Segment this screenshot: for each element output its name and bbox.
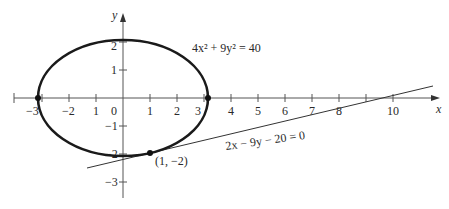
tangent-point — [147, 150, 153, 156]
y-axis-arrow-icon — [120, 13, 126, 22]
x-tick-label: 8 — [336, 104, 342, 118]
x-tick-label: 1 — [147, 104, 153, 118]
x-tick-label: 5 — [255, 104, 261, 118]
x-axis-label: x — [435, 102, 442, 116]
x-tick-label: 6 — [282, 104, 288, 118]
x-tick-label: 1 — [93, 104, 99, 118]
line-equation-label: 2x − 9y − 20 = 0 — [224, 128, 305, 153]
ellipse-tangent-diagram: −3 −2 1 0 1 2 3 4 5 6 7 8 10 x 2 1 −1 −2… — [0, 0, 449, 209]
x-axis — [14, 93, 440, 103]
y-axis-label: y — [111, 8, 118, 22]
x-axis-arrow-icon — [431, 95, 440, 101]
point-label: (1, −2) — [155, 154, 188, 168]
y-tick-label: −1 — [105, 119, 118, 133]
x-tick-label: 3 — [195, 104, 201, 118]
x-tick-label: −3 — [26, 104, 39, 118]
x-tick-labels: −3 −2 1 0 1 2 3 4 5 6 7 8 10 x — [26, 102, 442, 118]
x-tick-label: 4 — [228, 104, 234, 118]
ellipse-equation-label: 4x² + 9y² = 40 — [192, 41, 261, 55]
x-tick-label: 2 — [174, 104, 180, 118]
x-tick-label: 7 — [309, 104, 315, 118]
left-vertex-point — [35, 95, 41, 101]
x-tick-label: −2 — [62, 104, 75, 118]
x-tick-label: 10 — [387, 104, 399, 118]
right-vertex-point — [205, 95, 211, 101]
x-tick-label: 0 — [111, 104, 117, 118]
y-tick-label: 1 — [111, 63, 117, 77]
y-tick-label: −3 — [105, 175, 118, 189]
